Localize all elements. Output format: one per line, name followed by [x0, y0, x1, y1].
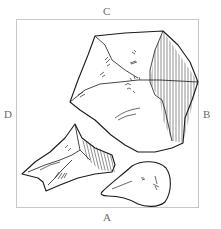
stone-fragments-figure: C B A D — [0, 0, 221, 229]
fragments-drawing — [0, 0, 221, 229]
large-fragment — [70, 30, 198, 152]
triangular-fragment — [22, 120, 116, 191]
